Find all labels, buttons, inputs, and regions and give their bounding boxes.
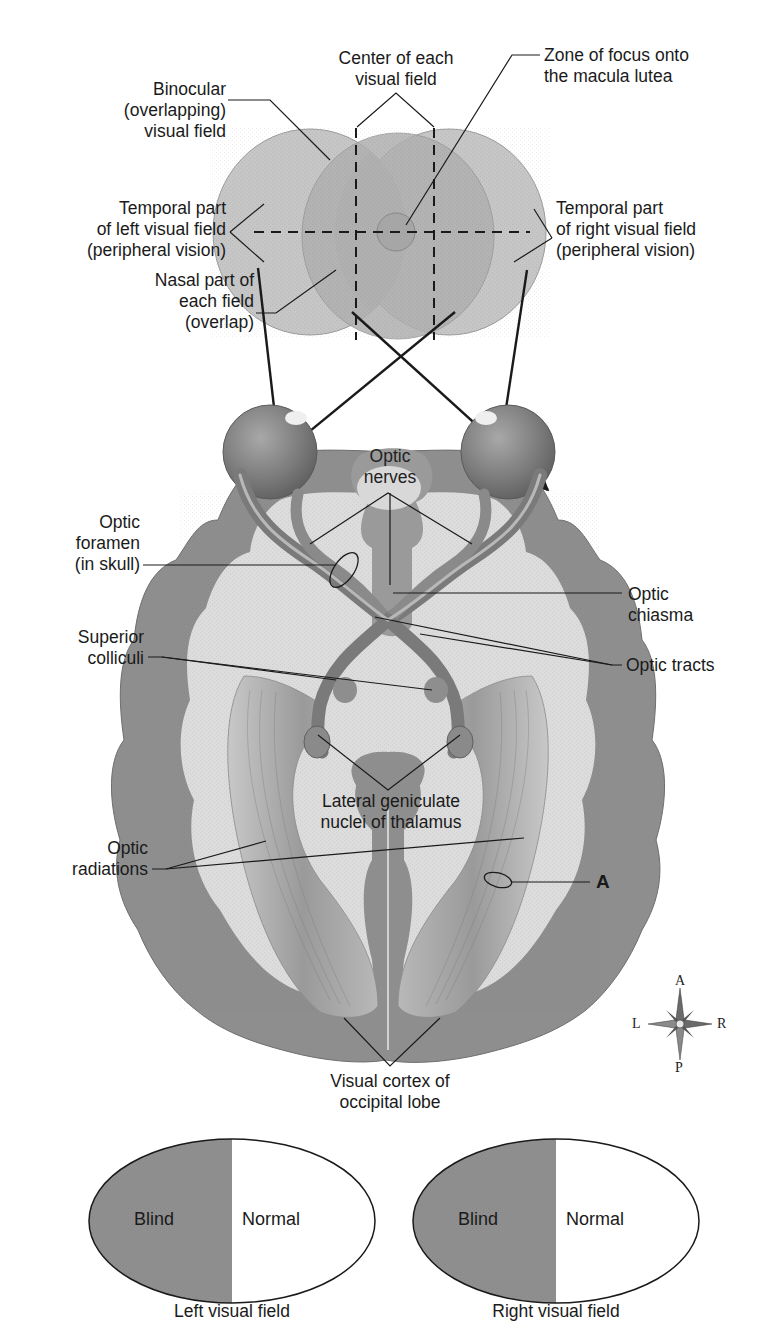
brain-section: [111, 405, 664, 1062]
label-nasal-part: Nasal part of each field (overlap): [40, 270, 254, 333]
label-optic-foramen: Optic foramen (in skull): [40, 512, 140, 575]
left-field-caption: Left visual field: [132, 1301, 332, 1322]
left-field-normal-label: Normal: [242, 1209, 300, 1230]
label-visual-cortex: Visual cortex of occipital lobe: [300, 1071, 480, 1113]
label-optic-tracts: Optic tracts: [626, 655, 766, 676]
field-result-right: [412, 1138, 699, 1304]
label-marker-a: A: [596, 871, 626, 892]
label-temporal-left: Temporal part of left visual field (peri…: [20, 198, 226, 261]
compass-posterior: P: [675, 1060, 683, 1076]
right-field-caption: Right visual field: [454, 1301, 658, 1322]
visual-fields: [210, 128, 550, 340]
label-lateral-geniculate: Lateral geniculate nuclei of thalamus: [296, 791, 486, 833]
field-result-left: [88, 1138, 375, 1304]
label-optic-chiasma: Optic chiasma: [628, 584, 748, 626]
compass-right: R: [717, 1016, 726, 1032]
label-binocular-field: Binocular (overlapping) visual field: [40, 79, 226, 142]
compass-anterior: A: [675, 973, 685, 989]
label-optic-radiations: Optic radiations: [40, 838, 148, 880]
label-center-of-each-field: Center of each visual field: [314, 48, 478, 90]
right-field-normal-label: Normal: [566, 1209, 624, 1230]
label-zone-of-focus: Zone of focus onto the macula lutea: [544, 45, 764, 87]
left-field-blind-label: Blind: [134, 1209, 174, 1230]
label-optic-nerves: Optic nerves: [350, 446, 430, 488]
right-field-blind-label: Blind: [458, 1209, 498, 1230]
label-superior-colliculi: Superior colliculi: [40, 627, 144, 669]
label-temporal-right: Temporal part of right visual field (per…: [556, 198, 772, 261]
compass-left: L: [632, 1016, 641, 1032]
compass-rose: [648, 988, 712, 1060]
